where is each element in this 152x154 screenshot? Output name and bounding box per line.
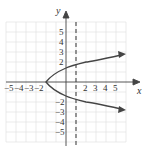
y-axis-label: y [55, 5, 61, 16]
svg-text:−4: −4 [14, 83, 24, 93]
svg-text:4: 4 [59, 37, 64, 47]
svg-text:−3: −3 [55, 107, 65, 117]
svg-text:5: 5 [59, 27, 64, 37]
svg-text:5: 5 [113, 83, 118, 93]
svg-text:2: 2 [59, 57, 64, 67]
x-tick-labels: −5 −4 −3 −2 2 3 4 5 [4, 83, 118, 93]
svg-text:3: 3 [93, 83, 98, 93]
svg-text:−5: −5 [55, 127, 65, 137]
svg-text:3: 3 [59, 47, 64, 57]
x-axis-label: x [136, 85, 142, 96]
svg-text:−2: −2 [55, 97, 65, 107]
svg-text:2: 2 [83, 83, 88, 93]
y-axis-arrow-icon [63, 11, 69, 18]
svg-text:4: 4 [103, 83, 108, 93]
svg-text:−5: −5 [4, 83, 14, 93]
svg-text:−3: −3 [24, 83, 34, 93]
svg-text:−2: −2 [34, 83, 44, 93]
svg-text:−4: −4 [55, 117, 65, 127]
chart: y x −5 −4 −3 −2 2 3 4 5 5 4 3 2 −2 −3 −4… [0, 0, 152, 154]
